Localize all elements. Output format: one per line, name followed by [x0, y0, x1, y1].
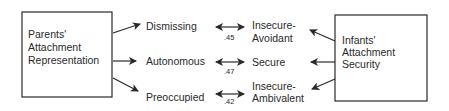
- infants-box-line-3: Security: [342, 58, 381, 70]
- correlation-2: .47: [224, 67, 234, 76]
- label-dismissing: Dismissing: [146, 20, 197, 32]
- arrow-to-preoccupied: [113, 78, 138, 91]
- parents-box-line-3: Representation: [28, 54, 99, 66]
- parents-box-line-2: Attachment: [28, 41, 81, 53]
- label-preoccupied: Preoccupied: [146, 91, 205, 103]
- arrow-to-dismissing: [113, 24, 140, 33]
- infants-box-line-2: Attachment: [342, 46, 395, 58]
- attachment-diagram: Parents' Attachment Representation Dismi…: [0, 0, 449, 111]
- parents-box-line-1: Parents': [28, 28, 66, 40]
- correlation-1: .45: [224, 33, 234, 42]
- label-secure: Secure: [252, 56, 285, 68]
- label-autonomous: Autonomous: [146, 55, 205, 67]
- label-insecure-ambivalent-line-1: Insecure-: [252, 80, 296, 92]
- arrow-to-insecure-avoidant: [310, 30, 335, 41]
- arrow-to-insecure-ambivalent: [312, 79, 335, 89]
- infants-box-line-1: Infants': [342, 34, 376, 46]
- label-insecure-avoidant-line-2: Avoidant: [252, 32, 293, 44]
- label-insecure-avoidant-line-1: Insecure-: [252, 19, 296, 31]
- correlation-3: .42: [224, 97, 234, 106]
- label-insecure-ambivalent-line-2: Ambivalent: [252, 92, 304, 104]
